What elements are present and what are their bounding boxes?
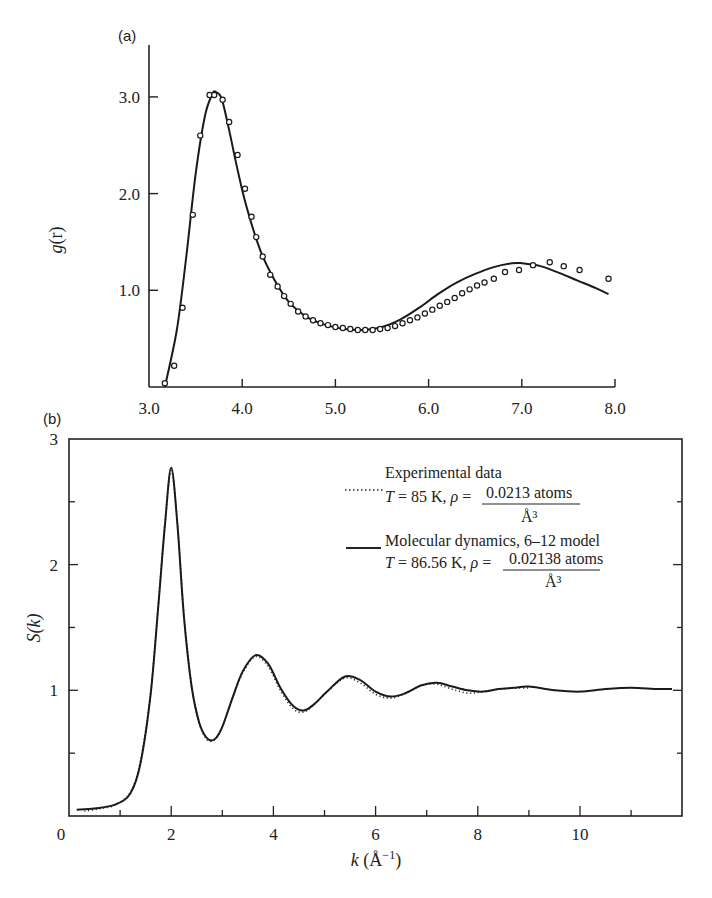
- g-r-data-point: [190, 212, 195, 217]
- x-tick-label: 8.0: [604, 399, 625, 418]
- x-tick-label: 4.0: [232, 399, 253, 418]
- g-r-data-point: [363, 327, 368, 332]
- g-r-data-point: [260, 254, 265, 259]
- y-tick-label: 3.0: [119, 88, 140, 107]
- panel-b-ticks: 0246810123: [50, 430, 683, 844]
- figure: (a) 3.04.05.06.07.08.01.02.03.0 g(r) (b)…: [0, 0, 712, 898]
- g-r-data-point: [254, 235, 259, 240]
- g-r-data-point: [561, 264, 566, 269]
- legend-md-den: Å³: [545, 573, 562, 590]
- legend-exp-params: T = 85 K, ρ =: [385, 488, 471, 506]
- s-k-md-solid-curve: [77, 468, 672, 810]
- g-r-data-point: [325, 323, 330, 328]
- panel-b-frame: [69, 439, 682, 816]
- g-r-data-point: [502, 269, 507, 274]
- y-tick-label: 2.0: [119, 185, 140, 204]
- g-r-data-point: [370, 327, 375, 332]
- x-tick-label: 6.0: [418, 399, 439, 418]
- x-tick-label: 0: [57, 825, 66, 844]
- g-r-data-point: [606, 276, 611, 281]
- legend-exp-den: Å³: [521, 508, 538, 525]
- g-r-data-point: [385, 325, 390, 330]
- g-r-data-point: [437, 303, 442, 308]
- g-r-data-point: [491, 276, 496, 281]
- legend-md-params: T = 86.56 K, ρ =: [385, 554, 491, 572]
- x-tick-label: 10: [572, 825, 589, 844]
- g-r-data-point: [288, 301, 293, 306]
- s-k-experimental-dotted: [84, 471, 529, 812]
- x-tick-label: 7.0: [511, 399, 532, 418]
- g-r-data-point: [474, 283, 479, 288]
- panel-b-plot-area: [77, 468, 672, 811]
- panel-a-y-axis-title: g(r): [46, 227, 67, 254]
- g-r-data-point: [577, 267, 582, 272]
- x-tick-label: 6: [371, 825, 380, 844]
- panel-a-label: (a): [118, 27, 136, 44]
- g-r-data-point: [340, 325, 345, 330]
- g-r-data-point: [378, 326, 383, 331]
- g-r-data-point: [482, 280, 487, 285]
- g-r-data-point: [235, 152, 240, 157]
- panel-b-label: (b): [43, 410, 61, 427]
- g-r-data-point: [467, 287, 472, 292]
- y-tick-label: 2: [50, 556, 59, 575]
- g-r-data-point: [392, 323, 397, 328]
- g-r-data-point: [198, 133, 203, 138]
- panel-b-x-axis-title: k (Å−1): [351, 848, 401, 871]
- g-r-data-point: [242, 186, 247, 191]
- y-tick-label: 3: [50, 430, 59, 449]
- g-r-data-point: [355, 327, 360, 332]
- x-tick-label: 5.0: [325, 399, 346, 418]
- g-r-data-point: [162, 381, 167, 386]
- g-r-data-point: [516, 267, 521, 272]
- g-r-data-point: [400, 321, 405, 326]
- g-r-theory-curve: [165, 91, 609, 387]
- legend-md-title: Molecular dynamics, 6–12 model: [385, 532, 601, 550]
- x-tick-label: 3.0: [138, 399, 159, 418]
- g-r-data-point: [333, 324, 338, 329]
- panel-b-y-axis-title: S(k): [24, 614, 45, 643]
- legend-md-num: 0.02138 atoms: [509, 550, 603, 567]
- g-r-data-point: [445, 299, 450, 304]
- g-r-data-point: [212, 92, 217, 97]
- g-r-data-point: [407, 318, 412, 323]
- x-tick-label: 2: [167, 825, 176, 844]
- g-r-data-point: [303, 314, 308, 319]
- panel-b-legend: Experimental data T = 85 K, ρ = 0.0213 a…: [345, 464, 603, 590]
- g-r-data-point: [282, 294, 287, 299]
- x-tick-label: 4: [269, 825, 278, 844]
- y-tick-label: 1.0: [119, 281, 140, 300]
- g-r-data-point: [530, 263, 535, 268]
- g-r-data-point: [452, 295, 457, 300]
- panel-b-s-of-k: (b) 0246810123 S(k) k (Å−1) Experimental…: [24, 410, 682, 871]
- g-r-data-point: [296, 309, 301, 314]
- g-r-data-point: [430, 307, 435, 312]
- g-r-data-point: [460, 291, 465, 296]
- g-r-data-point: [220, 97, 225, 102]
- x-tick-label: 8: [474, 825, 483, 844]
- g-r-data-point: [227, 119, 232, 124]
- g-r-data-point: [318, 321, 323, 326]
- g-r-data-point: [547, 260, 552, 265]
- g-r-data-point: [172, 363, 177, 368]
- g-r-data-point: [275, 284, 280, 289]
- g-r-data-point: [422, 311, 427, 316]
- y-tick-label: 1: [50, 681, 59, 700]
- g-r-data-point: [310, 318, 315, 323]
- panel-a-ticks: 3.04.05.06.07.08.01.02.03.0: [119, 88, 626, 418]
- g-r-data-point: [348, 326, 353, 331]
- legend-exp-title: Experimental data: [385, 464, 502, 482]
- g-r-data-point: [180, 305, 185, 310]
- g-r-data-point: [249, 214, 254, 219]
- legend-exp-params-rest: = 85 K,: [394, 488, 451, 505]
- g-r-data-point: [268, 272, 273, 277]
- panel-a-g-of-r: (a) 3.04.05.06.07.08.01.02.03.0 g(r): [46, 27, 626, 418]
- panel-a-plot-area: [162, 91, 611, 387]
- legend-exp-num: 0.0213 atoms: [486, 484, 572, 501]
- g-r-data-point: [415, 315, 420, 320]
